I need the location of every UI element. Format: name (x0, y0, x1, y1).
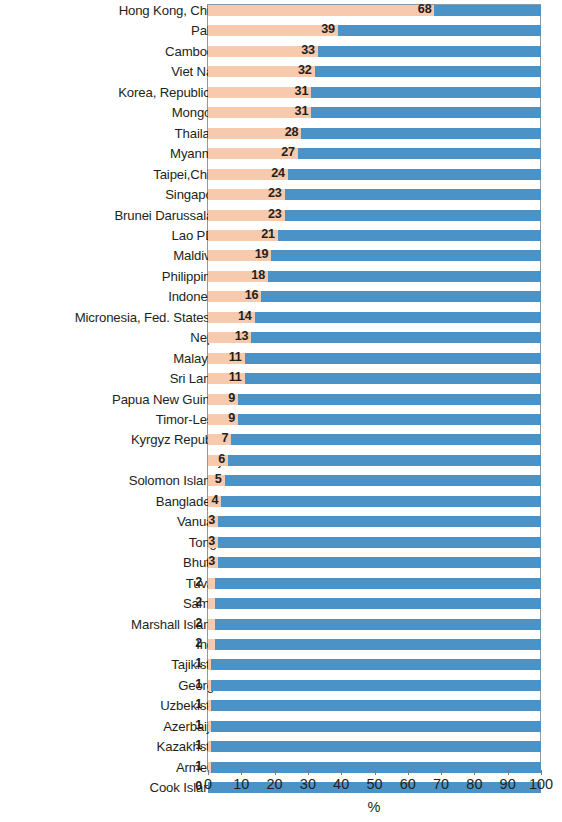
chart-row: Uzbekistan1 (0, 700, 562, 720)
bar-value-label: 9 (228, 393, 238, 404)
bar-segment-b (218, 537, 541, 548)
chart-row: Kazakhstan1 (0, 741, 562, 761)
category-label: Bhutan (9, 556, 224, 570)
bar-segment-b (298, 148, 541, 159)
bar-value-label: 1 (195, 761, 206, 772)
bar-value-label: 5 (215, 474, 225, 485)
bar: 9 (208, 414, 541, 425)
chart-row: India2 (0, 639, 562, 659)
bar-value-label: 23 (268, 188, 285, 199)
category-label: Taipei,China (9, 168, 224, 182)
bar-segment-b (245, 353, 541, 364)
category-label: Tajikistan (9, 658, 224, 672)
axis-tick-label: 60 (400, 776, 416, 793)
bar-value-label: 3 (208, 515, 218, 526)
axis-tick-label: 10 (233, 776, 249, 793)
bar: 39 (208, 25, 541, 36)
category-label: Brunei Darussalam (9, 209, 224, 223)
axis-tick-label: 40 (333, 776, 349, 793)
bar-segment-b (215, 598, 541, 609)
bar: 9 (208, 394, 541, 405)
bar-value-label: 6 (218, 454, 228, 465)
chart-row: Samoa2 (0, 598, 562, 618)
chart-row: Bangladesh4 (0, 496, 562, 516)
bar-value-label: 2 (195, 638, 206, 649)
bar: 3 (208, 516, 541, 527)
bar-value-label: 1 (195, 740, 206, 751)
bar: 18 (208, 271, 541, 282)
bar-value-label: 16 (245, 290, 262, 301)
bar-segment-b (268, 271, 541, 282)
bar: 3 (208, 557, 541, 568)
chart-row: Hong Kong, China68 (0, 5, 562, 25)
bar: 68 (208, 5, 541, 16)
axis-tick-label: 20 (267, 776, 283, 793)
bar: 16 (208, 291, 541, 302)
chart-row: Solomon Islands5 (0, 475, 562, 495)
bar-value-label: 1 (195, 720, 206, 731)
bar: 19 (208, 250, 541, 261)
bar-segment-a (208, 598, 215, 609)
bar: 27 (208, 148, 541, 159)
bar-segment-b (301, 128, 541, 139)
bar-value-label: 28 (285, 127, 302, 138)
bar: 3 (208, 537, 541, 548)
bar-value-label: 19 (255, 249, 272, 260)
category-label: Micronesia, Fed. States of (9, 311, 224, 325)
axis-tick (241, 770, 242, 775)
axis-tick (508, 770, 509, 775)
bar-segment-b (315, 66, 541, 77)
bar-segment-b (318, 46, 541, 57)
category-label: Korea, Republic of (9, 86, 224, 100)
category-label: Armenia (9, 761, 224, 775)
category-label: Malaysia (9, 352, 224, 366)
bar: 11 (208, 353, 541, 364)
chart-row: Korea, Republic of31 (0, 87, 562, 107)
chart-row: Tonga3 (0, 537, 562, 557)
bar-value-label: 1 (195, 679, 206, 690)
category-label: Maldives (9, 249, 224, 263)
bar-segment-b (211, 721, 541, 732)
bar-segment-b (211, 680, 541, 691)
category-label: Georgia (9, 679, 224, 693)
chart-row: Viet Nam32 (0, 66, 562, 86)
axis-tick (474, 770, 475, 775)
axis-tick-label: 50 (366, 776, 382, 793)
category-label: Samoa (9, 597, 224, 611)
axis-tick (541, 770, 542, 775)
category-label: Singapore (9, 188, 224, 202)
bar-value-label: 4 (212, 495, 222, 506)
chart-row: Lao PDR21 (0, 230, 562, 250)
bar-segment-b (211, 700, 541, 711)
bar-segment-b (255, 312, 541, 323)
bar: 6 (208, 455, 541, 466)
bar-segment-b (218, 516, 541, 527)
bar-segment-b (238, 414, 541, 425)
bar-value-label: 33 (301, 45, 318, 56)
bar-segment-b (288, 169, 541, 180)
chart-row: Fiji6 (0, 455, 562, 475)
chart-row: Papua New Guinea9 (0, 394, 562, 414)
chart-row: Marshall Islands2 (0, 619, 562, 639)
bar: 1 (208, 721, 541, 732)
bar-segment-b (271, 250, 541, 261)
bar-segment-b (285, 210, 541, 221)
category-label: Lao PDR (9, 229, 224, 243)
chart-row: Malaysia11 (0, 353, 562, 373)
bar-segment-b (311, 107, 541, 118)
bar: 24 (208, 169, 541, 180)
chart-row: Brunei Darussalam23 (0, 210, 562, 230)
bar: 31 (208, 87, 541, 98)
bar-segment-b (215, 639, 541, 650)
category-label: Indonesia (9, 290, 224, 304)
bar-segment-b (251, 332, 541, 343)
bar-segment-b (215, 619, 541, 630)
axis-tick (341, 770, 342, 775)
axis-tick-label: 0 (204, 776, 212, 793)
chart-row: Timor-Leste9 (0, 414, 562, 434)
bar-value-label: 31 (295, 106, 312, 117)
category-label: Tonga (9, 536, 224, 550)
bar: 1 (208, 659, 541, 670)
category-label: Timor-Leste (9, 413, 224, 427)
axis-tick-label: 30 (300, 776, 316, 793)
